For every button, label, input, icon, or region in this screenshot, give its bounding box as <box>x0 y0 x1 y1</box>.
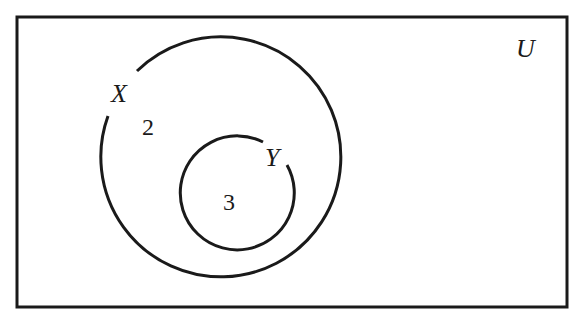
region-x-only-value: 2 <box>142 114 154 140</box>
region-y-value: 3 <box>223 189 235 215</box>
set-y-label: Y <box>265 143 282 172</box>
venn-diagram: X 2 Y 3 U <box>0 0 579 323</box>
set-x-label: X <box>110 79 128 108</box>
universal-set-label: U <box>516 34 537 63</box>
set-x-circle <box>101 37 341 277</box>
